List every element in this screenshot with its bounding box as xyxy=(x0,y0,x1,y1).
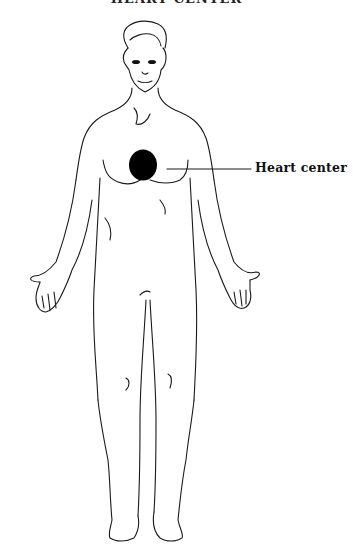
heart-center-callout xyxy=(0,0,353,549)
heart-center-label: Heart center xyxy=(255,160,347,175)
heart-center-marker xyxy=(129,150,157,181)
